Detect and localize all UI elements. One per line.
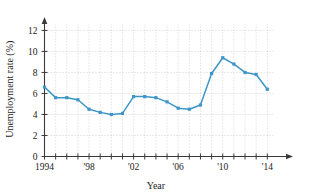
data-point — [255, 73, 258, 76]
x-tick-label: '06 — [173, 162, 184, 172]
x-tick-label: '10 — [217, 162, 228, 172]
x-axis-title: Year — [147, 180, 166, 191]
data-point — [76, 98, 79, 101]
data-point — [99, 111, 102, 114]
chart-canvas: 1994'98'02'06'10'14 024681012 Year Unemp… — [0, 0, 312, 194]
data-point — [54, 96, 57, 99]
x-tick-label: 1994 — [35, 162, 54, 172]
data-point — [87, 108, 90, 111]
data-point — [132, 95, 135, 98]
y-tick-label: 4 — [33, 110, 38, 120]
data-point — [188, 108, 191, 111]
data-point — [121, 112, 124, 115]
data-point — [177, 107, 180, 110]
data-point — [221, 56, 224, 59]
y-tick-label: 6 — [33, 89, 38, 99]
data-point — [199, 103, 202, 106]
y-tick-label: 2 — [33, 131, 38, 141]
data-point — [266, 88, 269, 91]
data-point — [143, 95, 146, 98]
y-axis-arrowhead — [42, 17, 48, 24]
data-point — [210, 72, 213, 75]
unemployment-rate-line-chart: 1994'98'02'06'10'14 024681012 Year Unemp… — [0, 0, 312, 194]
data-point — [243, 71, 246, 74]
data-point — [232, 62, 235, 65]
x-tick-label: '02 — [128, 162, 139, 172]
data-point — [154, 96, 157, 99]
data-point — [165, 100, 168, 103]
x-axis-arrowhead — [286, 154, 293, 160]
data-point — [43, 86, 46, 89]
data-point — [110, 113, 113, 116]
y-tick-label: 12 — [28, 26, 38, 36]
y-tick-label: 10 — [28, 47, 38, 57]
x-tick-label: '98 — [83, 162, 94, 172]
y-tick-label: 0 — [33, 152, 38, 162]
x-tick-label: '14 — [262, 162, 273, 172]
unemployment-series-markers — [43, 56, 269, 116]
data-point — [65, 96, 68, 99]
y-axis-title: Unemployment rate (%) — [4, 41, 16, 138]
horizontal-gridlines — [45, 30, 274, 135]
vertical-gridlines — [45, 24, 268, 156]
x-axis-tick-labels: 1994'98'02'06'10'14 — [35, 162, 273, 172]
y-axis-tick-labels: 024681012 — [28, 26, 38, 162]
y-tick-label: 8 — [33, 68, 38, 78]
